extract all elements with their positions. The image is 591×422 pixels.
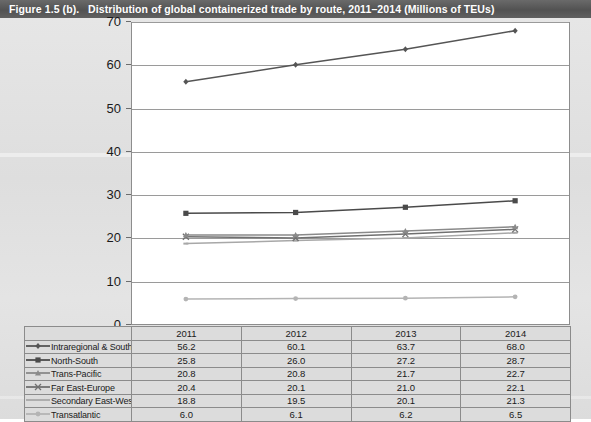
diamond-marker-icon: [25, 341, 51, 351]
legend-marker: [25, 395, 51, 405]
series-line: [186, 201, 515, 214]
series-line: [186, 297, 515, 299]
series-marker: [183, 297, 188, 302]
triangle-marker-icon: [25, 368, 51, 378]
table-cell-value: 6.0: [132, 408, 242, 422]
line-marker-icon: [25, 395, 51, 405]
series-marker: [513, 232, 518, 234]
legend-marker: [25, 341, 51, 351]
series-marker: [513, 198, 518, 203]
table-header-row: 2011 2012 2013 2014: [25, 327, 571, 341]
table-cell-value: 20.8: [132, 367, 242, 381]
table-cell-value: 26.0: [241, 354, 351, 368]
series-marker: [293, 210, 298, 215]
series-line: [186, 31, 515, 82]
table-row: Intraregional & South-South56.260.163.76…: [25, 340, 571, 354]
column-header-2012: 2012: [241, 327, 351, 341]
table-row: Far East-Europe20.420.121.022.1: [25, 381, 571, 395]
table-cell-value: 21.0: [351, 381, 461, 395]
table-cell-value: 20.4: [132, 381, 242, 395]
legend-label: North-South: [51, 356, 98, 366]
legend-label: Transatlantic: [51, 410, 100, 420]
legend-marker: [25, 355, 51, 365]
table-cell-value: 22.7: [461, 367, 571, 381]
column-header-2014: 2014: [461, 327, 571, 341]
table-cell-value: 27.2: [351, 354, 461, 368]
square-marker-icon: [25, 355, 51, 365]
table-row: Trans-Pacific20.820.821.722.7: [25, 367, 571, 381]
table-cell-value: 18.8: [132, 394, 242, 408]
series-marker: [513, 28, 518, 34]
legend-cell: Secondary East-West: [25, 394, 132, 408]
figure-title: Distribution of global containerized tra…: [88, 3, 495, 15]
table-row: Transatlantic6.06.16.26.5: [25, 408, 571, 422]
legend-cell: Intraregional & South-South: [25, 340, 132, 354]
legend-marker: [25, 409, 51, 419]
table-cell-value: 19.5: [241, 394, 351, 408]
y-tick-label: 30: [87, 187, 121, 202]
legend-marker: [25, 368, 51, 378]
table-cell-value: 22.1: [461, 381, 571, 395]
table-cell-value: 68.0: [461, 340, 571, 354]
legend-cell: Far East-Europe: [25, 381, 132, 395]
table-cell-value: 28.7: [461, 354, 571, 368]
table-row: Secondary East-West18.819.520.121.3: [25, 394, 571, 408]
column-header-2011: 2011: [132, 327, 242, 341]
table-cell-value: 6.2: [351, 408, 461, 422]
table-cell-value: 6.5: [461, 408, 571, 422]
table-cell-value: 20.1: [241, 381, 351, 395]
series-marker: [403, 237, 408, 239]
series-marker: [183, 79, 188, 85]
legend-cell: North-South: [25, 354, 132, 368]
legend-label: Secondary East-West: [51, 396, 132, 406]
legend-label: Intraregional & South-South: [51, 342, 132, 352]
chart-series-layer: [131, 22, 570, 325]
series-marker: [403, 205, 408, 210]
y-tick-label: 70: [87, 14, 121, 29]
cross-marker-icon: [25, 382, 51, 392]
y-tick-label: 20: [87, 230, 121, 245]
legend-cell: Transatlantic: [25, 408, 132, 422]
series-marker: [183, 211, 188, 216]
table-cell-value: 21.3: [461, 394, 571, 408]
series-marker: [293, 296, 298, 301]
series-marker: [403, 46, 408, 52]
table-cell-value: 63.7: [351, 340, 461, 354]
series-marker: [183, 243, 188, 245]
table-cell-value: 56.2: [132, 340, 242, 354]
figure-number: Figure 1.5 (b).: [9, 3, 79, 15]
table-cell-value: 20.8: [241, 367, 351, 381]
legend-label: Trans-Pacific: [51, 369, 101, 379]
column-header-2013: 2013: [351, 327, 461, 341]
legend-label: Far East-Europe: [51, 383, 115, 393]
table-cell-value: 60.1: [241, 340, 351, 354]
table-cell-value: 6.1: [241, 408, 351, 422]
y-tick-label: 50: [87, 101, 121, 116]
table-cell-value: 25.8: [132, 354, 242, 368]
legend-marker: [25, 382, 51, 392]
legend-header-spacer: [25, 327, 132, 341]
table-cell-value: 21.7: [351, 367, 461, 381]
series-marker: [403, 296, 408, 301]
series-marker: [513, 294, 518, 299]
table-row: North-South25.826.027.228.7: [25, 354, 571, 368]
data-table: 2011 2012 2013 2014 Intraregional & Sout…: [24, 326, 571, 422]
y-tick-label: 40: [87, 144, 121, 159]
legend-cell: Trans-Pacific: [25, 367, 132, 381]
table-body: Intraregional & South-South56.260.163.76…: [25, 340, 571, 421]
table-cell-value: 20.1: [351, 394, 461, 408]
circle-marker-icon: [25, 409, 51, 419]
series-marker: [293, 62, 298, 68]
y-tick-label: 10: [87, 274, 121, 289]
y-tick-label: 60: [87, 57, 121, 72]
